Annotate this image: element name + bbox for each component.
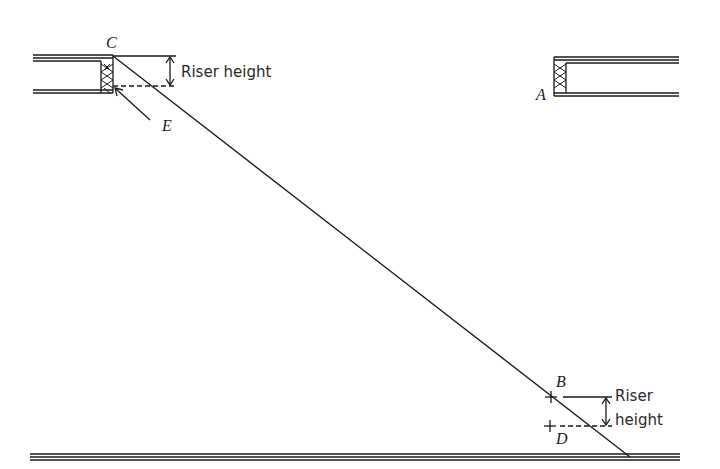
point-d-mark	[544, 420, 556, 432]
upper-riser-dimension	[113, 56, 176, 86]
point-b-label: B	[556, 373, 566, 391]
lower-riser-dimension	[560, 397, 612, 426]
upper-right-floor	[554, 57, 679, 96]
upper-left-floor	[33, 55, 113, 93]
point-e-label: E	[162, 117, 172, 135]
upper-riser-label: Riser height	[181, 64, 271, 81]
lower-riser-label-line1: Riser	[615, 388, 653, 405]
header-hatch-right	[554, 64, 566, 88]
point-a-label: A	[536, 86, 546, 104]
lower-floor	[30, 454, 680, 460]
point-d-label: D	[556, 430, 568, 448]
lower-riser-label-line2: height	[615, 412, 663, 429]
e-pointer-arrow	[115, 88, 150, 120]
header-hatch-left	[101, 64, 113, 93]
stair-diagram	[0, 0, 720, 469]
point-c-label: C	[106, 34, 117, 52]
